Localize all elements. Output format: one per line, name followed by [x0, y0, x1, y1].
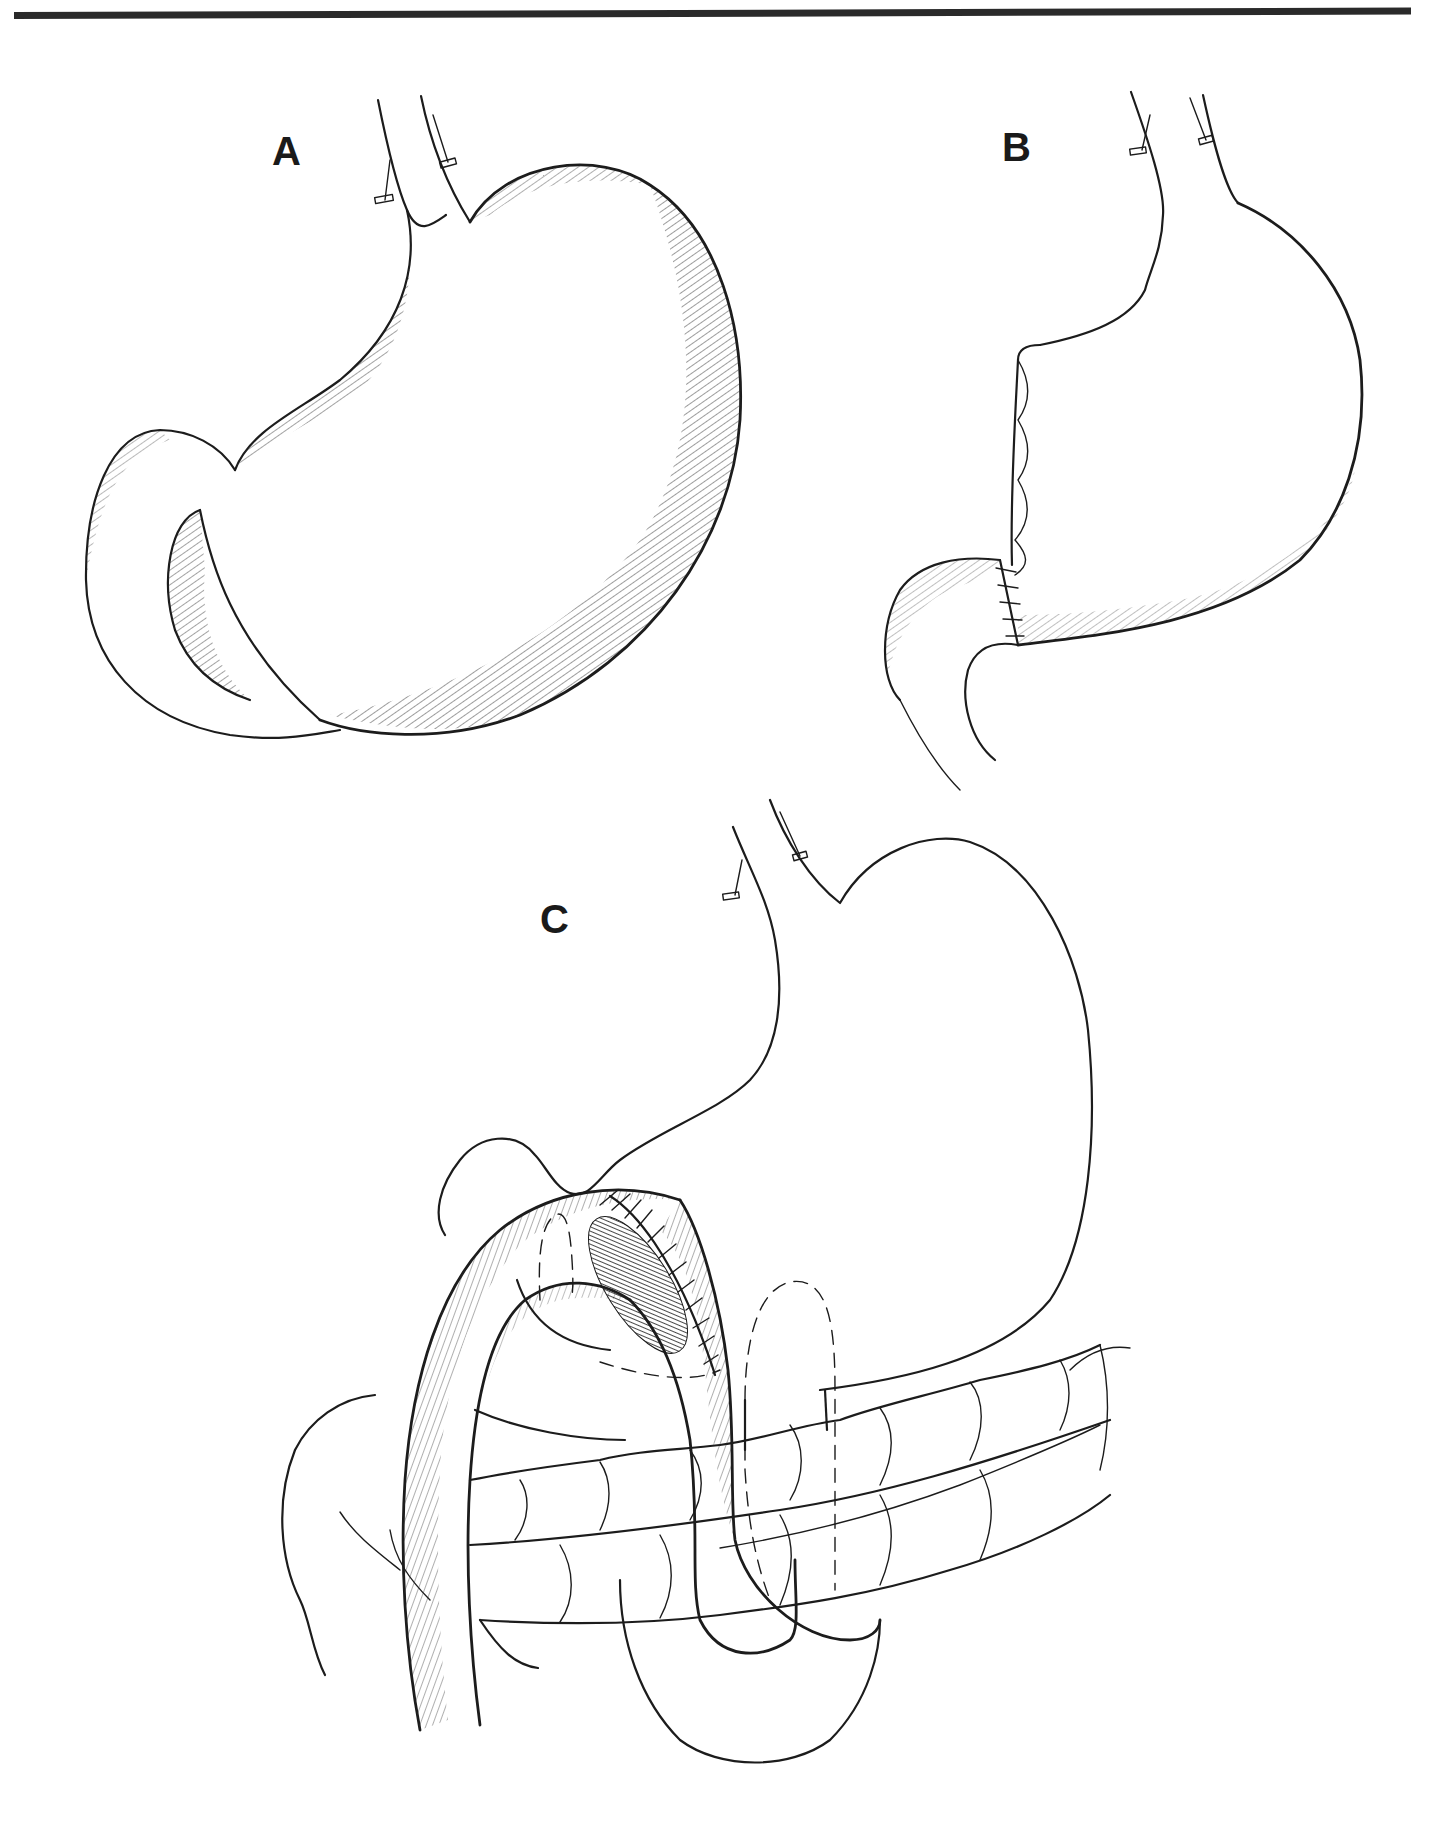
panel-a-antrum-edge: [200, 510, 320, 720]
panel-c-mesentery-line-2: [475, 1410, 625, 1440]
vagal-clip-icon: [1130, 115, 1150, 155]
panel-a-duodenum-outer: [86, 430, 340, 738]
panel-c-colon-right: [1070, 1345, 1130, 1470]
illustration-canvas: [0, 0, 1430, 1843]
panel-a-esophagus-left: [421, 96, 470, 222]
panel-c-greater-curvature: [770, 800, 1092, 1390]
panel-c-haustra-lower: [560, 1470, 991, 1622]
panel-b-esophagus-right: [1203, 95, 1238, 203]
panel-c-retrocolic-dashed-left: [745, 1400, 770, 1600]
panel-c-loop-bottom: [620, 1580, 880, 1763]
panel-c-hidden-outline-stomach: [600, 1362, 720, 1378]
panel-c-lesser-curvature: [439, 827, 780, 1235]
panel-c-retrocolic-limb: [745, 1281, 835, 1600]
panel-c-efferent-limb-outer: [680, 1200, 880, 1640]
panel-c-haustra-upper: [515, 1360, 1069, 1540]
panel-b-greater-curvature: [1018, 203, 1362, 645]
panel-a-esophagus-right: [378, 100, 446, 226]
vagal-clip-icon: [433, 115, 457, 168]
vagal-clip-icon: [780, 812, 808, 861]
vagal-clip-icon: [723, 860, 742, 900]
panel-c-jejunal-loop: [403, 1190, 880, 1763]
vagal-clip-icon: [375, 160, 394, 204]
panel-b-esophagus-left: [1040, 92, 1163, 345]
panel-a-stomach: [86, 96, 741, 738]
panel-b-shading: [1018, 470, 1355, 645]
panel-b-duodenum-tail: [900, 700, 960, 790]
panel-b-duodenum-inner: [965, 644, 1018, 760]
panel-c-left-colon-outer: [282, 1395, 375, 1675]
panel-c-colon-under-loop: [480, 1620, 538, 1668]
panel-c-taenia: [470, 1420, 1110, 1545]
panel-c-colon-upper-edge: [470, 1345, 1100, 1480]
panel-a-shading: [330, 185, 741, 729]
panel-b-stomach: [885, 92, 1362, 790]
panel-c-retrocolic-solid-right: [825, 1390, 827, 1430]
